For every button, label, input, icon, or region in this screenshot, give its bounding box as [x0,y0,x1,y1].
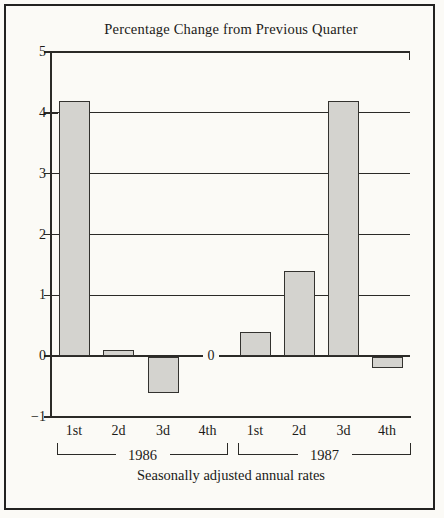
y-tick-label-2: 2 [12,226,46,244]
y-tick-2 [44,234,58,235]
year-bracket-left-tick-1987 [238,443,239,455]
x-label-1986-4th: 4th [186,423,230,439]
plot-area: 0543210−11st2d3d4th1st2d3d4th19861987 [0,0,444,518]
bar-1986-1st [59,101,90,357]
bar-1987-4th [372,357,403,368]
bar-1987-3d [328,101,359,357]
x-label-1986-3d: 3d [141,423,185,439]
zero-inline-label: 0 [202,347,220,365]
year-bracket-left-tick-1986 [57,443,58,455]
year-bracket-right-tick-1986 [227,443,228,455]
year-label-1987: 1987 [298,446,352,464]
year-label-1986: 1986 [116,446,170,464]
bar-1987-1st [240,332,271,356]
y-tick-4 [44,112,58,113]
bar-1986-3d [148,357,179,393]
x-label-1986-1st: 1st [52,423,96,439]
figure-page: Percentage Change from Previous Quarter … [0,0,444,518]
y-tick-label-5: 5 [12,43,46,61]
y-tick-label-−1: −1 [12,408,46,426]
y-tick-label-4: 4 [12,104,46,122]
bottom-axis-line [51,416,411,418]
chart-footnote: Seasonally adjusted annual rates [41,467,421,484]
year-bracket-right-tick-1987 [410,443,411,455]
top-right-tick [409,52,410,60]
y-tick-0 [44,355,58,356]
y-tick-label-1: 1 [12,286,46,304]
x-label-1987-4th: 4th [365,423,409,439]
bar-1986-2d [103,350,134,356]
y-tick-label-0: 0 [12,347,46,365]
x-label-1987-1st: 1st [233,423,277,439]
x-label-1986-2d: 2d [97,423,141,439]
x-label-1987-3d: 3d [322,423,366,439]
y-tick-3 [44,173,58,174]
y-tick-1 [44,295,58,296]
bar-1987-2d [284,271,315,356]
gridline-5 [51,51,410,52]
y-tick-−1 [44,416,58,417]
y-tick-5 [44,51,58,52]
y-tick-label-3: 3 [12,165,46,183]
x-label-1987-2d: 2d [277,423,321,439]
